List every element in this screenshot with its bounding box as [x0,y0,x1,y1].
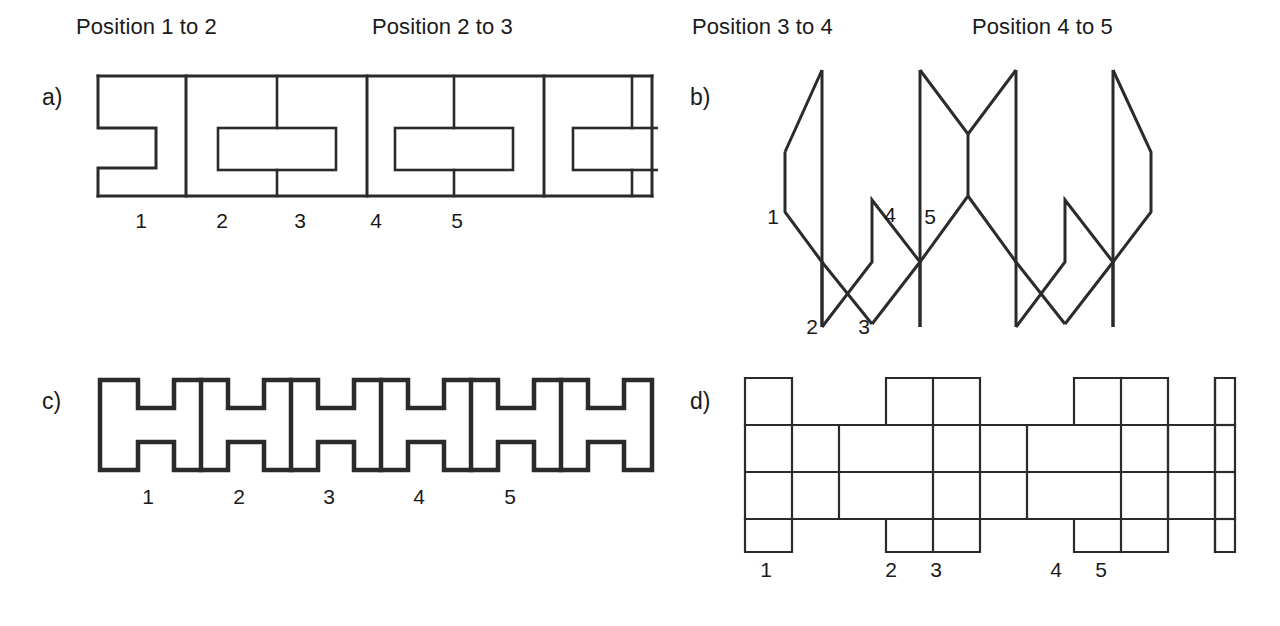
figure-root: Position 1 to 2 Position 2 to 3 Position… [0,0,1280,626]
panel-c-tick-1: 1 [142,485,154,509]
panel-d-block-45-outline [1027,378,1168,552]
panel-b-chevron-b-right-bottom [968,196,1016,262]
panel-b-tick-3: 3 [858,315,870,339]
panel-b-edge-right [1113,70,1151,262]
panel-a-tab-1 [218,128,336,170]
panel-c-comb-outline [100,380,652,470]
panel-d-cell-1a [745,378,792,425]
panel-d-cell-1d [745,519,792,552]
panel-d-cell-1c [745,472,792,519]
panel-d-cell-1b [745,425,792,472]
heading-position-3-to-4: Position 3 to 4 [692,14,833,40]
panel-a-tick-4: 4 [370,209,382,233]
panel-b-chevron-a-body [822,200,920,327]
panel-c-tick-4: 4 [413,485,425,509]
panel-a-tick-3: 3 [294,209,306,233]
panel-d-diagram [735,370,1245,560]
panel-b-tick-1: 1 [767,205,779,229]
panel-b-chevron-a-right [872,262,920,324]
panel-a-tab-3 [573,128,658,170]
panel-c-tick-3: 3 [323,485,335,509]
panel-b-tick-2: 2 [806,315,818,339]
panel-a-tick-1: 1 [135,209,147,233]
panel-letter-c: c) [42,388,61,414]
panel-letter-a: a) [42,84,62,110]
panel-b-chevron-b-left [920,70,968,262]
panel-d-tick-4: 4 [1050,558,1062,582]
panel-d-tick-2: 2 [885,558,897,582]
panel-b-edge-upper-left [785,70,822,152]
heading-position-2-to-3: Position 2 to 3 [372,14,513,40]
panel-d-cell-6-outline [1215,378,1235,552]
panel-c-tick-2: 2 [233,485,245,509]
panel-a-tick-2: 2 [216,209,228,233]
panel-a-module-1-notch [98,76,156,196]
panel-b-tick-5: 5 [924,205,936,229]
panel-c-diagram [92,372,658,478]
panel-b-edge-lower-left [785,152,822,327]
panel-b-chevron-c-right [1065,262,1113,324]
panel-a-tab-2 [395,128,513,170]
panel-c-tick-5: 5 [504,485,516,509]
panel-b-diagram [735,62,1155,332]
panel-b-chevron-c-body [1016,200,1113,327]
panel-a-tick-5: 5 [451,209,463,233]
panel-letter-d: d) [690,388,710,414]
panel-d-tick-3: 3 [930,558,942,582]
panel-d-tick-1: 1 [760,558,772,582]
panel-a-diagram [92,68,658,204]
heading-position-4-to-5: Position 4 to 5 [972,14,1113,40]
panel-d-tick-5: 5 [1095,558,1107,582]
panel-d-block-23-outline [839,378,980,552]
panel-b-chevron-b-right-top [968,70,1016,134]
panel-letter-b: b) [690,84,710,110]
panel-b-tick-4: 4 [884,203,896,227]
heading-position-1-to-2: Position 1 to 2 [76,14,217,40]
